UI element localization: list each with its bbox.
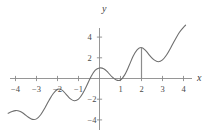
graph-figure: −4−3−2−1123442−2−4 x y: [0, 0, 211, 139]
y-tick-label: 4: [88, 33, 92, 42]
x-tick-label: 2: [139, 85, 143, 94]
x-tick-label: −2: [53, 85, 62, 94]
x-axis-label: x: [197, 73, 201, 83]
y-axis-label: y: [102, 4, 106, 14]
x-tick-label: −1: [74, 85, 83, 94]
axes-group: [10, 28, 192, 130]
y-tick-label: 2: [88, 54, 92, 63]
x-tick-label: 1: [118, 85, 122, 94]
function-curve: [8, 25, 185, 119]
plot-area: [0, 0, 211, 139]
x-tick-label: 3: [160, 85, 164, 94]
x-tick-label: −3: [32, 85, 41, 94]
x-tick-label: 4: [181, 85, 185, 94]
data-group: [8, 25, 185, 119]
x-tick-label: −4: [11, 85, 20, 94]
y-tick-label: −2: [88, 95, 97, 104]
y-tick-label: −4: [88, 116, 97, 125]
